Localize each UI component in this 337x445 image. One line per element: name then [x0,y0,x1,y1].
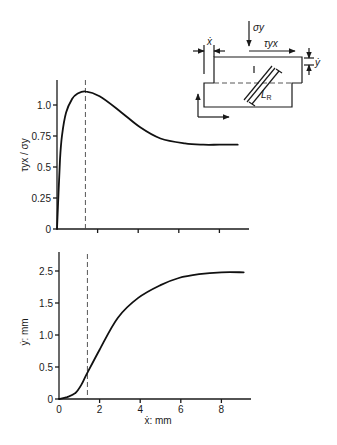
bottom-x-ticks: 02468 [56,399,224,415]
top-y-axis-title: τyx / σy [19,138,30,171]
y-tick-label: 0 [45,224,51,235]
y-tick-label: 0.5 [37,162,51,173]
dilation-curve [59,272,244,399]
y-tick-label: 1.5 [39,298,53,309]
x-tick-label: 6 [178,404,184,415]
x-tick-label: 4 [137,404,143,415]
y-tick-label: 0.75 [32,131,52,142]
x-tick-label: 8 [219,404,225,415]
shear-stress-chart: 00.250.50.751.0 τyx / σy [19,80,249,235]
y-disp-label: ẏ [314,57,321,68]
figure: 00.250.50.751.0 τyx / σy 00.51.01.52.5 0… [0,0,337,445]
y-tick-label: 0 [47,394,53,405]
y-tick-label: 0.5 [39,362,53,373]
bottom-y-axis-title: ẏ: mm [19,318,30,345]
upper-block [214,57,302,83]
x-tick-label: 0 [56,404,62,415]
shear-box-diagram: σy τyx ẋ ẏ LR [193,21,321,117]
dilation-chart: 00.51.01.52.5 02468 ẏ: mm ẋ: mm [19,252,251,426]
top-y-ticks: 00.250.50.751.0 [32,100,57,235]
bottom-y-ticks: 00.51.01.52.5 [39,266,59,405]
band-length-label: LR [261,89,272,101]
band-length-sub: R [267,94,272,101]
y-tick-label: 2.5 [39,266,53,277]
y-tick-label: 1.0 [39,330,53,341]
shear-stress-label: τyx [264,38,279,49]
x-tick-label: 2 [97,404,103,415]
y-tick-label: 0.25 [32,193,52,204]
x-disp-label: ẋ [206,36,213,47]
bottom-x-axis-title: ẋ: mm [144,415,171,426]
normal-stress-label: σy [253,22,265,33]
band-length-end-top [276,69,282,73]
y-tick-label: 1.0 [37,100,51,111]
shear-stress-curve [57,91,238,229]
band-length-end-bottom [249,102,255,106]
